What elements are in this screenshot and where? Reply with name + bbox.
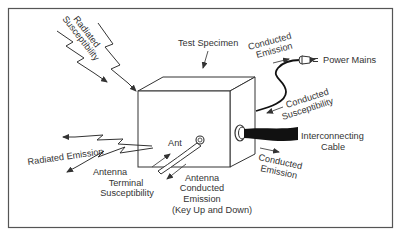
interconnecting-cable-label-2: Cable [321,142,345,152]
antenna-conducted-emission-label-1: Antenna [185,173,220,183]
test-specimen-label: Test Specimen [178,38,238,48]
interconnecting-cable-label-1: Interconnecting [301,131,364,141]
antenna-conducted-emission-label-4: (Key Up and Down) [172,205,252,215]
antenna-terminal-susceptibility-label-1: Antenna [93,167,128,177]
test-specimen-box-icon [138,77,255,167]
test-specimen-leader [203,51,208,68]
emc-test-diagram: Test Specimen Radiated Susceptibility Po… [0,0,401,236]
ant-label: Ant [168,138,182,148]
power-plug-icon [299,56,318,64]
interconnecting-cable-connector-icon [235,125,246,141]
radiated-emission-label: Radiated Emission [27,146,104,167]
antenna-terminal-susceptibility-label-3: Susceptibility [100,188,154,198]
antenna-terminal-susceptibility-label-2: Terminal [109,178,144,188]
antenna-conducted-emission-label-2: Conducted [180,183,224,193]
antenna-conducted-emission-label-3: Emission [183,194,220,204]
power-mains-label: Power Mains [323,55,377,65]
conducted-emission-bottom-arrow [260,148,279,152]
